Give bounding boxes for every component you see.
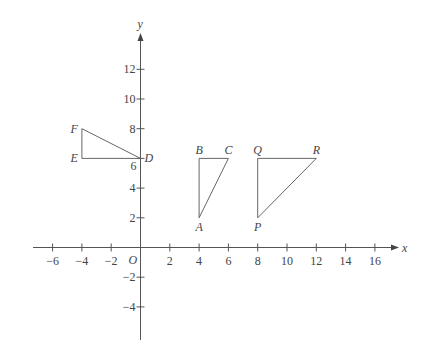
axes: xyO−6−4−2246810121416−4−224681012: [33, 17, 408, 340]
vertex-label-a: A: [194, 220, 203, 234]
y-tick-label: −4: [123, 300, 136, 314]
x-tick-label: 4: [196, 254, 202, 268]
vertex-label-d: D: [144, 151, 154, 165]
vertex-label-e: E: [70, 151, 79, 165]
y-tick-label: 4: [130, 181, 136, 195]
vertex-label-c: C: [224, 143, 233, 157]
coordinate-diagram: xyO−6−4−2246810121416−4−224681012 DEFABC…: [0, 0, 429, 357]
y-tick-label: 12: [124, 62, 136, 76]
y-tick-label: 10: [124, 92, 136, 106]
origin-label: O: [129, 253, 138, 267]
x-tick-label: 6: [225, 254, 231, 268]
x-axis-label: x: [401, 241, 408, 255]
x-axis-arrow-icon: [391, 245, 399, 251]
vertex-label-b: B: [195, 143, 203, 157]
vertex-label-r: R: [312, 143, 321, 157]
x-tick-label: 8: [255, 254, 261, 268]
vertex-label-q: Q: [253, 143, 262, 157]
y-axis-label: y: [137, 17, 144, 31]
x-tick-label: −4: [76, 254, 89, 268]
x-tick-label: 14: [340, 254, 352, 268]
y-tick-label: 2: [130, 211, 136, 225]
x-tick-label: 2: [167, 254, 173, 268]
vertex-label-p: P: [253, 220, 262, 234]
labels: DEFABCPQR: [70, 122, 321, 234]
x-tick-label: −2: [105, 254, 118, 268]
y-tick-label: 8: [130, 122, 136, 136]
triangle-PQR: [258, 158, 317, 217]
x-tick-label: 10: [281, 254, 293, 268]
shapes: [82, 129, 316, 218]
triangle-ABC: [199, 158, 228, 217]
x-tick-label: −6: [46, 254, 59, 268]
x-tick-label: 16: [369, 254, 381, 268]
y-tick-label: 6: [131, 159, 137, 173]
vertex-label-f: F: [70, 122, 79, 136]
x-tick-label: 12: [310, 254, 322, 268]
y-axis-arrow-icon: [138, 33, 144, 41]
y-tick-label: −2: [123, 270, 136, 284]
